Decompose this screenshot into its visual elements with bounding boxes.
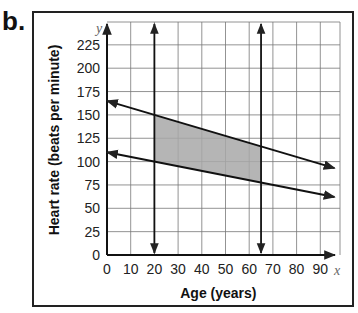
y-tick-label: 175 (77, 84, 101, 100)
y-tick-label: 0 (92, 247, 100, 263)
x-tick-label: 60 (241, 261, 257, 277)
x-axis-variable: x (333, 263, 341, 278)
inequality-graph: 0102030405060708090025507510012515017520… (0, 0, 358, 313)
x-tick-label: 70 (265, 261, 281, 277)
y-tick-label: 225 (77, 37, 101, 53)
x-tick-label: 0 (103, 261, 111, 277)
x-tick-label: 30 (170, 261, 186, 277)
x-tick-label: 20 (147, 261, 163, 277)
y-axis-variable: y (94, 21, 103, 36)
x-tick-label: 40 (194, 261, 210, 277)
x-tick-label: 80 (289, 261, 305, 277)
x-tick-label: 50 (218, 261, 234, 277)
x-axis-title: Age (years) (180, 285, 256, 301)
y-tick-label: 50 (84, 200, 100, 216)
x-tick-label: 10 (123, 261, 139, 277)
y-tick-label: 125 (77, 130, 101, 146)
y-tick-label: 200 (77, 60, 101, 76)
y-tick-label: 75 (84, 177, 100, 193)
x-tick-label: 90 (313, 261, 329, 277)
y-tick-label: 25 (84, 224, 100, 240)
y-tick-label: 100 (77, 154, 101, 170)
y-tick-label: 150 (77, 107, 101, 123)
y-axis-title: Heart rate (beats per minute) (46, 45, 62, 236)
